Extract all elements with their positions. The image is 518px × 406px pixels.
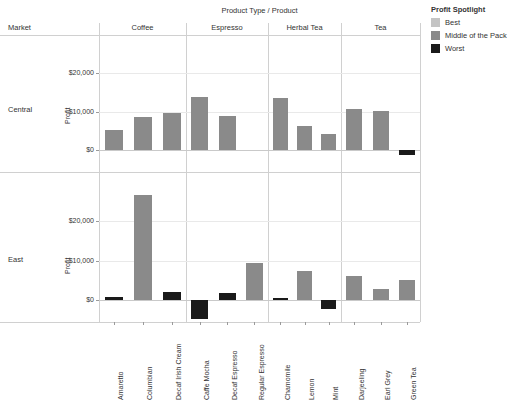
bar[interactable] — [321, 134, 336, 150]
bar[interactable] — [399, 280, 415, 300]
x-axis-tick — [305, 322, 306, 325]
bar[interactable] — [134, 117, 152, 150]
x-axis-tick — [200, 322, 201, 325]
x-axis-label-chamomile: Chamomile — [284, 365, 291, 400]
header-sep-3 — [268, 23, 269, 35]
legend-label-middle-of-the-pack: Middle of the Pack — [445, 31, 507, 40]
column-header-coffee: Coffee — [99, 23, 186, 32]
bar[interactable] — [373, 289, 389, 300]
x-axis-label-amaretto: Amaretto — [117, 372, 124, 400]
x-axis-tick — [114, 322, 115, 325]
y-axis-tick-label: $20,000 — [56, 69, 94, 76]
y-axis-tick-label: $10,000 — [56, 108, 94, 115]
header-sep-2 — [186, 23, 187, 35]
column-header-herbal-tea: Herbal Tea — [268, 23, 341, 32]
bar[interactable] — [321, 300, 336, 309]
y-axis-tick — [96, 300, 99, 301]
y-axis-tick — [96, 73, 99, 74]
x-axis-tick — [143, 322, 144, 325]
x-axis-label-lemon: Lemon — [308, 379, 315, 400]
bar[interactable] — [273, 98, 288, 150]
plot-panel-central: $20,000$10,000$0 — [0, 35, 420, 172]
bar[interactable] — [346, 109, 362, 150]
plot-panel-east: $20,000$10,000$0 — [0, 172, 420, 322]
y-axis-tick-label: $20,000 — [56, 217, 94, 224]
legend: Profit Spotlight Best Middle of the Pack… — [429, 5, 518, 57]
bar[interactable] — [134, 195, 152, 300]
header-sep-5 — [420, 23, 421, 35]
y-axis-tick — [96, 112, 99, 113]
x-axis-label-mint: Mint — [332, 387, 339, 400]
bar[interactable] — [219, 116, 236, 150]
column-header-espresso: Espresso — [186, 23, 268, 32]
bar[interactable] — [399, 150, 415, 155]
bar[interactable] — [246, 263, 263, 300]
bar[interactable] — [219, 293, 236, 300]
legend-item-best[interactable]: Best — [431, 18, 518, 27]
legend-swatch-middle-of-the-pack — [431, 31, 440, 40]
x-axis-tick — [254, 322, 255, 325]
legend-swatch-worst — [431, 44, 440, 53]
legend-label-worst: Worst — [445, 44, 464, 53]
x-axis-label-earl-grey: Earl Grey — [384, 370, 391, 400]
bar[interactable] — [297, 126, 312, 150]
y-axis-tick-label: $0 — [56, 146, 94, 153]
bar[interactable] — [273, 298, 288, 300]
x-axis-tick — [354, 322, 355, 325]
legend-swatch-best — [431, 18, 440, 27]
legend-title: Profit Spotlight — [431, 5, 518, 14]
zero-baseline — [99, 150, 420, 151]
zero-baseline — [99, 300, 420, 301]
header-sep-1 — [99, 23, 100, 35]
bar[interactable] — [163, 292, 181, 300]
x-axis-label-caffe-mocha: Caffe Mocha — [203, 360, 210, 400]
column-field-title: Product Type / Product — [99, 6, 420, 15]
y-axis-tick-label: $0 — [56, 296, 94, 303]
panel-bottom-border — [0, 322, 420, 323]
x-axis-label-regular-espresso: Regular Espresso — [258, 344, 265, 400]
bar[interactable] — [297, 271, 312, 300]
legend-label-best: Best — [445, 18, 460, 27]
x-axis-label-darjeeling: Darjeeling — [358, 368, 365, 400]
chart-page: Product Type / Product Market Coffee Esp… — [0, 0, 518, 406]
bar[interactable] — [191, 97, 208, 150]
x-axis-tick — [407, 322, 408, 325]
x-axis-label-decaf-espresso: Decaf Espresso — [231, 351, 238, 400]
x-axis-tick — [280, 322, 281, 325]
header-sep-4 — [341, 23, 342, 35]
y-axis-tick — [96, 150, 99, 151]
bar[interactable] — [373, 111, 389, 150]
row-field-title: Market — [8, 23, 31, 32]
y-axis-tick — [96, 221, 99, 222]
y-axis-tick — [96, 261, 99, 262]
x-axis-label-columbian: Columbian — [146, 367, 153, 400]
bar[interactable] — [346, 276, 362, 300]
x-axis-tick — [381, 322, 382, 325]
bar[interactable] — [105, 297, 123, 300]
column-header-tea: Tea — [341, 23, 420, 32]
bar[interactable] — [163, 113, 181, 150]
gridline — [99, 112, 420, 113]
x-axis-label-decaf-irish-cream: Decaf Irish Cream — [175, 344, 182, 400]
panel-sep-5 — [420, 35, 421, 322]
legend-item-middle-of-the-pack[interactable]: Middle of the Pack — [431, 31, 518, 40]
bar[interactable] — [191, 300, 208, 319]
legend-item-worst[interactable]: Worst — [431, 44, 518, 53]
bar[interactable] — [105, 130, 123, 150]
x-axis-tick — [227, 322, 228, 325]
gridline — [99, 73, 420, 74]
x-axis-label-green-tea: Green Tea — [410, 367, 417, 400]
x-axis-tick — [172, 322, 173, 325]
x-axis-tick — [329, 322, 330, 325]
y-axis-tick-label: $10,000 — [56, 257, 94, 264]
